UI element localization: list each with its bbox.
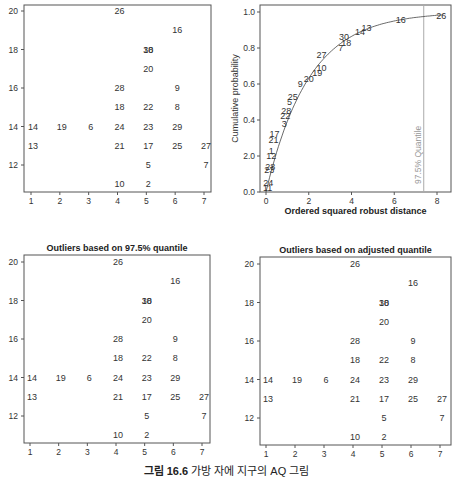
point-label: 21 — [114, 141, 124, 151]
y-tick-label: 0.8 — [243, 43, 255, 53]
point-label: 9 — [410, 336, 415, 346]
point-label: 14 — [263, 375, 273, 385]
y-tick-label: 18 — [245, 298, 255, 308]
x-tick-label: 1 — [28, 447, 33, 457]
x-tick-label: 6 — [171, 447, 176, 457]
point-label: 13 — [263, 394, 273, 404]
point-label: 9 — [175, 83, 180, 93]
point-label: 5 — [381, 413, 386, 423]
point-label: 27 — [201, 141, 211, 151]
point-label: 2 — [381, 432, 386, 442]
point-label: 22 — [143, 102, 153, 112]
point-label: 28 — [114, 83, 124, 93]
x-tick-label: 4 — [114, 447, 119, 457]
point-label: 9 — [298, 79, 303, 89]
scatter-plot-975-quantile: Outliers based on 97.5% quantile12345671… — [9, 243, 210, 457]
point-label: 26 — [436, 11, 446, 21]
plot-frame — [260, 257, 451, 445]
point-label: 30 — [339, 32, 349, 42]
scatter-plot-adjusted-quantile: Outliers based on adjusted quantile12345… — [245, 245, 451, 459]
x-tick-label: 7 — [438, 449, 443, 459]
point-label: 16 — [170, 276, 180, 286]
point-label: 10 — [317, 63, 327, 73]
y-tick-label: 1.0 — [243, 7, 255, 17]
point-label: 25 — [170, 392, 180, 402]
point-label: 5 — [144, 411, 149, 421]
plot-title: Outliers based on 97.5% quantile — [46, 243, 187, 253]
point-label: 29 — [172, 122, 182, 132]
point-label: 27 — [317, 50, 327, 60]
y-axis-label: Cumulative probability — [230, 54, 240, 143]
point-label: 5 — [146, 160, 151, 170]
point-label: 23 — [143, 122, 153, 132]
x-tick-label: 2 — [57, 196, 62, 206]
caption-text: 가방 자에 지구의 AQ 그림 — [191, 465, 309, 477]
point-label: 20 — [142, 315, 152, 325]
point-label: 24 — [113, 373, 123, 383]
point-label: 24 — [263, 178, 273, 188]
point-label: 10 — [113, 430, 123, 440]
x-tick-label: 2 — [293, 449, 298, 459]
y-tick-label: 12 — [9, 160, 19, 170]
point-label: 19 — [56, 373, 66, 383]
point-label: 13 — [361, 23, 371, 33]
point-label: 24 — [350, 375, 360, 385]
plot-title: Outliers based on adjusted quantile — [279, 245, 432, 255]
point-label: 26 — [350, 259, 360, 269]
y-tick-label: 18 — [9, 45, 19, 55]
point-label: 10 — [350, 432, 360, 442]
point-label: 14 — [27, 373, 37, 383]
point-label: 16 — [408, 278, 418, 288]
x-tick-label: 5 — [144, 196, 149, 206]
point-label: 13 — [28, 141, 38, 151]
x-tick-label: 8 — [435, 196, 440, 206]
point-label: 17 — [270, 129, 280, 139]
point-label: 25 — [172, 141, 182, 151]
x-tick-label: 4 — [115, 196, 120, 206]
point-label: 24 — [114, 122, 124, 132]
point-label: 16 — [396, 15, 406, 25]
x-tick-label: 2 — [56, 447, 61, 457]
point-label: 18 — [379, 298, 389, 308]
x-tick-label: 3 — [86, 196, 91, 206]
y-tick-label: 14 — [245, 375, 255, 385]
point-label: 19 — [292, 375, 302, 385]
point-label: 7 — [203, 160, 208, 170]
x-tick-label: 4 — [351, 449, 356, 459]
figure-caption: 그림 16.6 가방 자에 지구의 AQ 그림 — [0, 462, 453, 478]
point-label: 6 — [323, 375, 328, 385]
y-tick-label: 12 — [245, 413, 255, 423]
y-tick-label: 16 — [9, 83, 19, 93]
point-label: 7 — [201, 411, 206, 421]
y-tick-label: 20 — [245, 259, 255, 269]
point-label: 18 — [113, 353, 123, 363]
point-label: 29 — [408, 375, 418, 385]
x-tick-label: 5 — [380, 449, 385, 459]
y-tick-label: 20 — [9, 257, 19, 267]
y-tick-label: 0.4 — [243, 115, 255, 125]
point-label: 17 — [143, 141, 153, 151]
y-tick-label: 0.6 — [243, 79, 255, 89]
y-tick-label: 0.0 — [243, 187, 255, 197]
point-label: 21 — [350, 394, 360, 404]
x-tick-label: 5 — [142, 447, 147, 457]
point-label: 8 — [410, 355, 415, 365]
point-label: 25 — [288, 92, 298, 102]
point-label: 1 — [269, 146, 274, 156]
point-label: 28 — [265, 162, 275, 172]
point-label: 23 — [142, 373, 152, 383]
point-label: 22 — [142, 353, 152, 363]
plot-frame — [24, 255, 210, 443]
point-label: 17 — [379, 394, 389, 404]
x-tick-label: 0 — [264, 196, 269, 206]
quantile-label: 97.5% Quantile — [413, 126, 423, 184]
x-tick-label: 7 — [200, 447, 205, 457]
point-label: 18 — [350, 355, 360, 365]
point-label: 18 — [142, 296, 152, 306]
point-label: 16 — [172, 25, 182, 35]
y-tick-label: 2.0 — [243, 151, 255, 161]
point-label: 28 — [350, 336, 360, 346]
y-tick-label: 16 — [245, 336, 255, 346]
point-label: 9 — [173, 334, 178, 344]
